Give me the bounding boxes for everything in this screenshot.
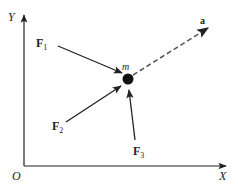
force-diagram: Y X O a F1 F2 F3 m bbox=[0, 0, 238, 188]
force-f2-arrow bbox=[66, 86, 121, 122]
mass-label: m bbox=[122, 61, 129, 72]
force-f3-label: F3 bbox=[133, 144, 144, 160]
force-f1-arrow bbox=[58, 46, 122, 73]
force-f2-label: F2 bbox=[52, 119, 63, 135]
x-axis-label: X bbox=[218, 169, 227, 183]
acceleration-vector bbox=[133, 28, 208, 75]
mass-point bbox=[123, 74, 134, 85]
y-axis-label: Y bbox=[8, 10, 16, 24]
force-f3-arrow bbox=[129, 90, 135, 140]
force-f1-label: F1 bbox=[36, 36, 47, 52]
origin-label: O bbox=[12, 169, 21, 183]
acceleration-label: a bbox=[200, 15, 205, 26]
